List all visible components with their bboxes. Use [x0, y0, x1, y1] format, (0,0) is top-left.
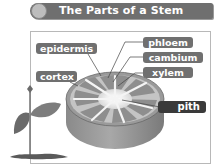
label-pith: pith: [158, 101, 206, 113]
plant-seedling-icon: [10, 85, 68, 159]
label-phloem: phloem: [143, 37, 193, 48]
label-xylem: xylem: [143, 67, 193, 78]
label-cambium: cambium: [143, 52, 203, 63]
stem-cross-section: [66, 72, 164, 149]
label-epidermis: epidermis: [36, 43, 97, 54]
stem-diagram-art: [0, 0, 219, 167]
label-cortex: cortex: [36, 71, 77, 82]
